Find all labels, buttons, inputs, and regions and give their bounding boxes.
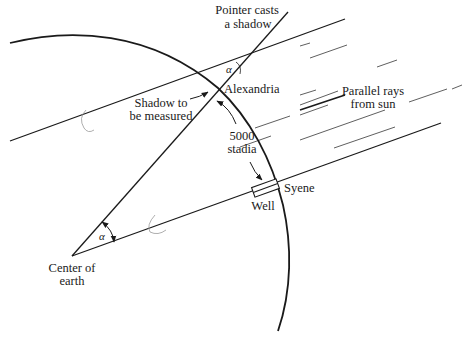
faint-mark-center: [149, 215, 166, 234]
shadow-label-line1: Shadow to: [134, 96, 187, 110]
distance-label-line1: 5000: [230, 129, 255, 143]
pointer-label-line2: a shadow: [225, 17, 272, 31]
earth-surface-arc: [10, 35, 289, 331]
alpha-top-label: α: [226, 63, 232, 75]
center-label-line1: Center of: [49, 261, 97, 275]
diagram-canvas: α α Pointer casts a shadow Alexandria Sh…: [0, 0, 474, 343]
well-label: Well: [251, 199, 275, 213]
shadow-label-line2: be measured: [130, 109, 194, 123]
parallel-label-line1: Parallel rays: [342, 84, 404, 98]
radius-alexandria: [72, 12, 288, 256]
parallel-label-line2: from sun: [351, 97, 397, 111]
alpha-center-label: α: [99, 230, 105, 242]
alexandria-label: Alexandria: [224, 82, 280, 96]
well: [252, 179, 280, 197]
center-label-line2: earth: [60, 274, 86, 288]
distance-arrow-bottom: [250, 162, 262, 180]
distance-label-line2: stadia: [227, 142, 257, 156]
shadow-arrow: [190, 92, 208, 99]
syene-label: Syene: [284, 181, 315, 195]
pointer-label-line1: Pointer casts: [215, 3, 279, 17]
eratosthenes-diagram: α α Pointer casts a shadow Alexandria Sh…: [0, 0, 474, 343]
